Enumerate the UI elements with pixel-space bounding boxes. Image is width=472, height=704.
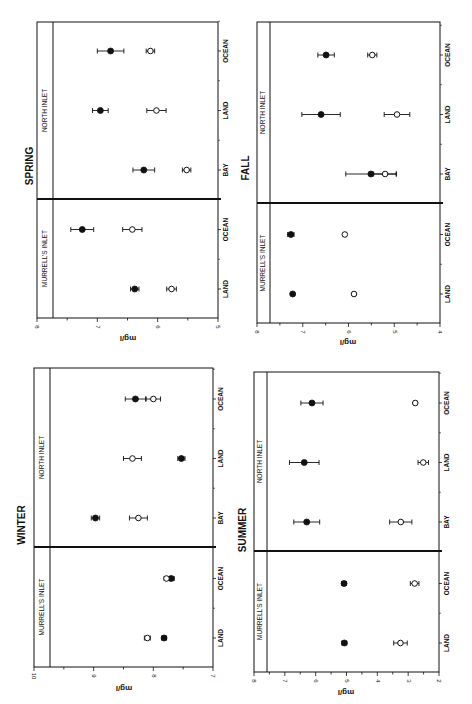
category-label-ocean: OCEAN (443, 391, 450, 415)
value-tick-label: 7 (210, 674, 216, 678)
value-axis-label: mg/l (340, 338, 356, 347)
data-point-filled (178, 456, 185, 462)
panel-fall: MURRELL'S INLETNORTH INLETFALL87654mg/lL… (240, 22, 451, 347)
data-point-open (167, 286, 177, 292)
open-circle-marker (151, 396, 157, 402)
data-point-open (384, 112, 410, 118)
data-point-filled (93, 108, 109, 114)
filled-circle-marker (323, 52, 329, 58)
panel-title: SUMMER (237, 507, 248, 552)
value-tick-label: 5 (392, 330, 398, 334)
value-tick-label: 8 (34, 325, 40, 329)
filled-circle-marker (132, 286, 138, 292)
category-label-land: LAND (444, 105, 451, 123)
data-point-open (123, 227, 142, 233)
data-point-filled (289, 460, 319, 466)
data-point-open (164, 576, 170, 582)
group-label-north-inlet: NORTH INLET (41, 89, 48, 132)
filled-circle-marker (304, 519, 310, 525)
data-point-open (410, 581, 419, 587)
data-point-open (374, 171, 397, 177)
data-point-open (390, 519, 412, 525)
category-label-land: LAND (222, 280, 229, 298)
data-point-open (368, 52, 377, 58)
value-tick-label: 6 (313, 679, 319, 683)
category-label-bay: BAY (444, 167, 451, 181)
category-label-bay: BAY (443, 515, 450, 529)
value-tick-label: 4 (437, 330, 443, 334)
open-circle-marker (398, 640, 404, 646)
chart-canvas: MURRELL'S INLETNORTH INLETSPRING8765mg/l… (0, 0, 472, 704)
group-label-north-inlet: NORTH INLET (38, 436, 45, 479)
value-tick-label: 4 (375, 679, 381, 683)
open-circle-marker (382, 171, 388, 177)
category-label-ocean: OCEAN (222, 217, 229, 241)
data-point-filled (294, 519, 320, 525)
panel-spring: MURRELL'S INLETNORTH INLETSPRING8765mg/l… (24, 21, 229, 343)
filled-circle-marker (288, 232, 294, 238)
filled-circle-marker (141, 167, 147, 173)
open-circle-marker (154, 108, 160, 114)
category-label-land: LAND (217, 449, 224, 467)
value-tick-label: 5 (215, 325, 221, 329)
value-tick-label: 5 (344, 679, 350, 683)
open-circle-marker (136, 515, 142, 521)
filled-circle-marker (309, 400, 315, 406)
data-point-filled (318, 52, 334, 58)
value-tick-label: 7 (95, 325, 101, 329)
open-circle-marker (342, 232, 348, 238)
data-point-open (182, 167, 190, 173)
data-point-filled (133, 167, 155, 173)
value-tick-label: 8 (254, 330, 260, 334)
open-circle-marker (164, 576, 170, 582)
filled-circle-marker (92, 515, 98, 521)
open-circle-marker (398, 519, 404, 525)
group-label-murrells-inlet: MURRELL'S INLET (38, 579, 45, 636)
value-tick-label: 8 (251, 679, 257, 683)
category-label-ocean: OCEAN (217, 387, 224, 411)
data-point-filled (161, 635, 167, 641)
data-point-filled (301, 400, 323, 406)
filled-circle-marker (341, 640, 347, 646)
open-circle-marker (184, 167, 190, 173)
category-label-land: LAND (443, 453, 450, 471)
filled-circle-marker (108, 48, 114, 54)
value-tick-label: 6 (346, 330, 352, 334)
open-circle-marker (130, 456, 136, 462)
value-tick-label: 7 (300, 330, 306, 334)
open-circle-marker (369, 52, 375, 58)
category-label-ocean: OCEAN (217, 566, 224, 590)
figure-dissolved-oxygen-by-season: MURRELL'S INLETNORTH INLETSPRING8765mg/l… (0, 0, 472, 704)
panel-title: FALL (240, 156, 251, 181)
data-point-filled (97, 48, 124, 54)
group-label-murrells-inlet: MURRELL'S INLET (259, 235, 266, 292)
open-circle-marker (412, 400, 418, 406)
panel-winter: MURRELL'S INLETNORTH INLETWINTER10987mg/… (16, 368, 224, 693)
group-label-north-inlet: NORTH INLET (259, 91, 266, 134)
data-point-open (351, 291, 357, 297)
data-point-open (146, 396, 160, 402)
data-point-open (144, 635, 150, 641)
open-circle-marker (420, 460, 426, 466)
open-circle-marker (412, 581, 418, 587)
value-tick-label: 8 (151, 674, 157, 678)
data-point-open (124, 456, 142, 462)
data-point-filled (341, 640, 347, 646)
group-label-north-inlet: NORTH INLET (256, 440, 263, 483)
filled-circle-marker (132, 396, 138, 402)
open-circle-marker (130, 227, 136, 233)
category-label-land: LAND (444, 285, 451, 303)
data-point-filled (288, 232, 294, 238)
filled-circle-marker (341, 581, 347, 587)
filled-circle-marker (178, 456, 184, 462)
group-label-murrells-inlet: MURRELL'S INLET (41, 230, 48, 287)
value-axis-label: mg/l (116, 684, 132, 693)
value-tick-label: 6 (155, 325, 161, 329)
data-point-open (412, 400, 418, 406)
value-tick-label: 3 (406, 679, 412, 683)
open-circle-marker (394, 112, 400, 118)
filled-circle-marker (97, 108, 103, 114)
open-circle-marker (148, 48, 154, 54)
category-label-land: LAND (443, 634, 450, 652)
filled-circle-marker (301, 460, 307, 466)
